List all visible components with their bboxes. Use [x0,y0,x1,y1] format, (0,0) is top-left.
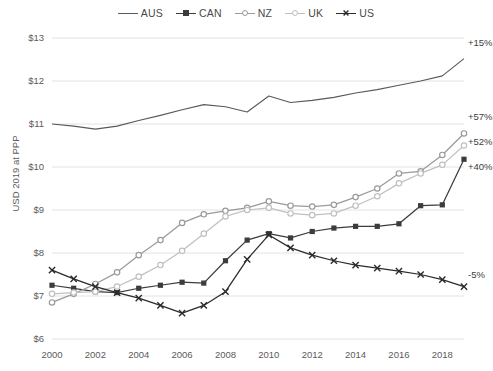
series-nz [49,131,466,305]
annotation-us: -5% [468,269,485,280]
y-tick-label: $9 [8,204,44,215]
data-point-marker [114,270,119,275]
data-point-marker [287,245,293,251]
x-tick-label: 2004 [117,349,161,360]
data-point-marker [201,281,206,286]
data-point-marker [331,211,336,216]
legend-swatch-uk-icon [285,8,305,18]
legend-item-nz[interactable]: NZ [235,7,272,19]
x-tick-label: 2008 [203,349,247,360]
legend-item-can[interactable]: CAN [176,7,222,19]
legend-label: AUS [141,7,163,19]
data-point-marker [223,258,228,263]
data-point-marker [136,286,141,291]
data-point-marker [158,237,163,242]
data-point-marker [179,248,184,253]
data-point-marker [49,300,54,305]
data-point-marker [461,157,466,162]
data-point-marker [310,204,315,209]
data-point-marker [223,208,228,213]
x-tick-label: 2010 [247,349,291,360]
data-point-marker [244,256,250,262]
x-tick-label: 2014 [334,349,378,360]
data-point-marker [223,214,228,219]
data-point-marker [353,194,358,199]
data-point-marker [353,203,358,208]
legend-label: CAN [199,7,222,19]
data-point-marker [71,290,76,295]
data-point-marker [179,310,185,316]
legend-item-uk[interactable]: UK [285,7,323,19]
legend-swatch-aus-icon [118,8,138,18]
data-point-marker [222,289,228,295]
data-point-marker [461,143,466,148]
data-point-marker [396,221,401,226]
legend-swatch-nz-icon [235,8,255,18]
data-point-marker [266,199,271,204]
y-tick-label: $12 [8,75,44,86]
data-point-marker [245,238,250,243]
data-point-marker [49,283,54,288]
annotation-aus: +15% [468,37,493,48]
legend-swatch-can-icon [176,8,196,18]
data-point-marker [136,252,141,257]
data-point-marker [331,225,336,230]
data-point-marker [418,171,423,176]
x-tick-label: 2000 [30,349,74,360]
data-point-marker [440,152,445,157]
y-tick-label: $8 [8,247,44,258]
data-point-marker [310,212,315,217]
data-point-marker [375,186,380,191]
legend-swatch-us-icon [336,8,356,18]
x-tick-label: 2012 [290,349,334,360]
chart-legend: AUSCANNZUKUS [0,7,492,19]
data-point-marker [288,203,293,208]
y-tick-label: $13 [8,32,44,43]
y-tick-label: $7 [8,290,44,301]
data-point-marker [461,131,466,136]
legend-item-us[interactable]: US [336,7,374,19]
data-point-marker [49,291,54,296]
annotation-can: +40% [468,161,493,172]
data-point-marker [266,205,271,210]
legend-label: NZ [258,7,272,19]
grid-lines [52,38,464,339]
x-tick-label: 2002 [73,349,117,360]
data-point-marker [244,207,249,212]
data-point-marker [158,283,163,288]
series-line [52,59,464,130]
data-point-marker [461,283,467,289]
legend-label: US [359,7,374,19]
annotation-uk: +52% [468,136,493,147]
data-point-marker [93,289,98,294]
data-point-marker [331,202,336,207]
legend-label: UK [308,7,323,19]
data-point-marker [375,224,380,229]
data-point-marker [201,302,207,308]
data-point-marker [440,162,445,167]
data-point-marker [201,212,206,217]
legend-item-aus[interactable]: AUS [118,7,163,19]
data-point-marker [396,171,401,176]
data-point-marker [114,284,119,289]
data-point-marker [180,280,185,285]
data-point-marker [353,224,358,229]
series-us [49,232,467,316]
series-line [52,133,464,302]
data-point-marker [418,203,423,208]
data-point-marker [136,274,141,279]
data-point-marker [288,211,293,216]
annotation-nz: +57% [468,111,493,122]
data-point-marker [396,181,401,186]
data-point-marker [375,194,380,199]
series-aus [52,59,464,130]
data-point-marker [288,235,293,240]
y-tick-label: $11 [8,118,44,129]
y-tick-label: $10 [8,161,44,172]
x-tick-label: 2018 [420,349,464,360]
x-tick-label: 2016 [377,349,421,360]
data-point-marker [157,302,163,308]
data-point-marker [310,229,315,234]
